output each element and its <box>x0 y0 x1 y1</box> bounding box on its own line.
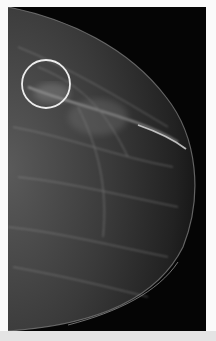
breast-tissue-graphic <box>8 7 206 331</box>
mammogram-image <box>8 7 206 331</box>
bottom-strip <box>0 331 216 341</box>
